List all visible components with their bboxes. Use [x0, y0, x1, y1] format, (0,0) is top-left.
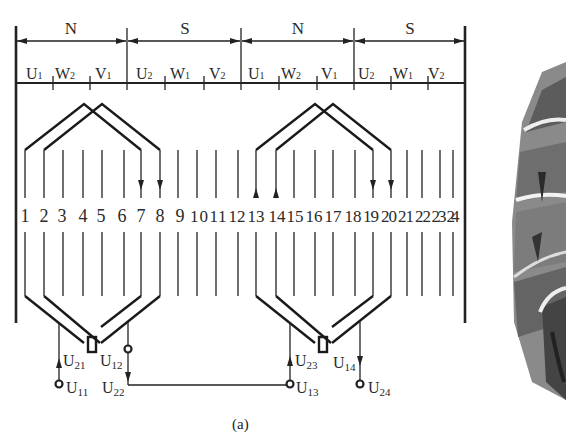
slot-number: 11 — [210, 207, 227, 226]
stator-winding-photo — [512, 62, 566, 400]
slot-number: 21 — [398, 207, 414, 226]
terminal-label-U21: U21 — [63, 352, 86, 371]
slot-number: 18 — [345, 207, 362, 226]
phase-band-label: W2 — [281, 65, 301, 82]
slot-number: 10 — [190, 207, 208, 226]
slot-number: 8 — [156, 206, 165, 226]
figure-caption: (a) — [232, 416, 249, 433]
slot-number: 23 — [432, 207, 447, 226]
terminal-label-U13: U13 — [296, 379, 319, 398]
slot-number: 3 — [58, 206, 67, 226]
pole-label: S — [405, 19, 414, 38]
phase-band-label: U2 — [136, 65, 153, 82]
terminal-label-U22: U22 — [102, 379, 125, 398]
coil-ends — [25, 104, 391, 352]
phase-band-label: U1 — [26, 65, 43, 82]
terminal-label-U14: U14 — [333, 354, 356, 373]
phase-band-label: V2 — [428, 65, 445, 82]
pole-label: N — [65, 19, 77, 38]
phase-band-label: U1 — [248, 65, 265, 82]
slot-number: 14 — [269, 207, 287, 226]
pole-label: S — [180, 19, 189, 38]
slot-number: 22 — [415, 207, 431, 226]
slot-number: 6 — [118, 206, 127, 226]
terminal-label-U24: U24 — [368, 379, 391, 398]
slot-number: 24 — [447, 207, 461, 226]
slot-number: 1 — [21, 206, 30, 226]
phase-band-label: U2 — [358, 65, 375, 82]
phase-band-label: W1 — [170, 65, 190, 82]
terminal-U24 — [357, 381, 364, 388]
terminal-label-U11: U11 — [66, 379, 88, 398]
slot-number: 15 — [287, 207, 304, 226]
slot-number: 9 — [176, 206, 185, 226]
phase-band-label: W2 — [55, 65, 75, 82]
terminal-U12 — [125, 346, 132, 353]
slot-number: 19 — [363, 207, 379, 226]
phase-band-label: V2 — [209, 65, 226, 82]
slot-numbers: 1 2 3 4 5 6 7 8 9 10 11 12 13 14 15 16 1… — [21, 206, 461, 226]
terminal-U11 — [56, 381, 63, 388]
slot-number: 20 — [381, 207, 397, 226]
slot-number: 2 — [40, 206, 49, 226]
terminal-U13 — [287, 381, 294, 388]
slot-number: 4 — [79, 206, 88, 226]
slot-number: 5 — [97, 206, 106, 226]
pole-label: N — [292, 19, 304, 38]
slot-number: 7 — [137, 206, 146, 226]
terminal-label-U12: U12 — [100, 352, 123, 371]
slot-number: 12 — [229, 207, 246, 226]
phase-band-label: V1 — [95, 65, 112, 82]
terminal-label-U23: U23 — [295, 352, 318, 371]
slot-number: 13 — [248, 207, 265, 226]
phase-band-label: V1 — [321, 65, 338, 82]
slot-number: 16 — [306, 207, 323, 226]
phase-band-label: W1 — [393, 65, 413, 82]
slot-number: 17 — [325, 207, 343, 226]
winding-diagram: N S N S U1 W2 V1 U2 W1 V2 U1 W2 V1 U2 W1… — [0, 0, 566, 445]
